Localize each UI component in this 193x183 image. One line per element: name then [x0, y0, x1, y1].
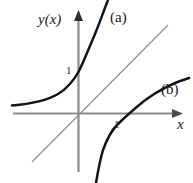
y-axis-tick-label-1: 1 [66, 65, 72, 76]
x-axis-label: x [177, 117, 184, 132]
y-axis-label: y(x) [38, 12, 61, 27]
x-axis-tick-label-1: 1 [114, 119, 120, 130]
curve-a-label: (a) [110, 10, 127, 25]
y-axis-arrowhead [74, 10, 83, 21]
math-figure: y(x) x (a) (b) 1 1 [0, 0, 193, 183]
identity-line [32, 25, 168, 162]
curve-b-label: (b) [161, 82, 179, 97]
